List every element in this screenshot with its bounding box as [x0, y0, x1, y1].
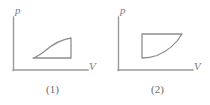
diagram-panel-2: p V (2): [105, 0, 210, 105]
process-region-2: [142, 34, 182, 58]
panel-1-caption: (1): [0, 83, 105, 96]
process-region-1: [33, 38, 71, 58]
pv-diagram-figure: p V (1) p V (2): [0, 0, 210, 105]
v-axis-label: V: [89, 60, 97, 72]
panel-2-caption: (2): [105, 83, 210, 96]
diagram-panel-1: p V (1): [0, 0, 105, 105]
p-axis-label: p: [119, 4, 126, 16]
v-axis-label: V: [194, 60, 202, 72]
p-axis-label: p: [14, 4, 21, 16]
